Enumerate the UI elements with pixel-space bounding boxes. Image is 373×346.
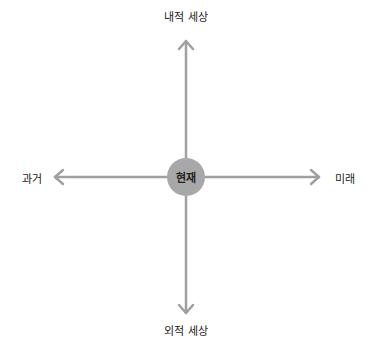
- axis-label-inner-world: 내적 세상: [164, 8, 208, 24]
- axis-label-outer-world: 외적 세상: [164, 322, 208, 338]
- axis-label-future: 미래: [335, 170, 355, 186]
- axis-label-past: 과거: [22, 170, 42, 186]
- center-label-present: 현재: [176, 169, 196, 185]
